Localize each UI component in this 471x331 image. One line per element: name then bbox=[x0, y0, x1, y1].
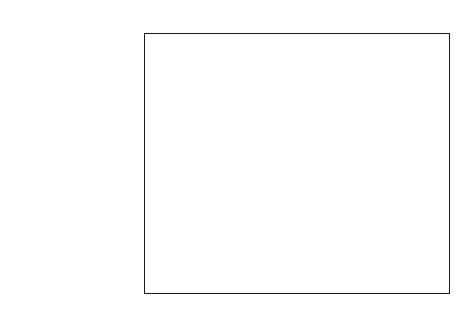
category-label-column bbox=[0, 0, 138, 331]
plot-area bbox=[144, 33, 450, 294]
figure-container bbox=[0, 0, 471, 331]
